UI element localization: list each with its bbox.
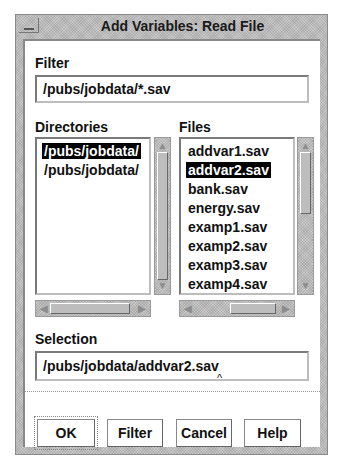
separator	[25, 391, 320, 392]
files-item-label: addvar1.sav	[186, 143, 271, 159]
selection-value: /pubs/jobdata/addvar2.sav	[43, 358, 219, 374]
files-item-label: bank.sav	[186, 181, 250, 197]
files-list-item[interactable]: energy.sav	[181, 199, 293, 218]
files-item-label: addvar2.sav	[186, 162, 271, 178]
directories-vertical-scrollbar[interactable]: ▲ ▼	[154, 137, 171, 295]
window-title: Add Variables: Read File	[42, 17, 323, 35]
directories-vscroll-thumb[interactable]	[157, 152, 168, 280]
scroll-down-icon[interactable]: ▼	[157, 281, 168, 291]
directories-hscroll-thumb[interactable]	[50, 303, 130, 314]
title-bar[interactable]: Add Variables: Read File	[16, 15, 327, 37]
window-menu-button[interactable]	[19, 18, 39, 33]
files-list-item[interactable]: addvar2.sav	[181, 161, 293, 180]
files-list-item[interactable]: bank.sav	[181, 180, 293, 199]
files-label: Files	[179, 119, 211, 135]
filter-label: Filter	[35, 55, 69, 71]
files-vscroll-thumb[interactable]	[300, 152, 311, 214]
files-item-label: examp2.sav	[186, 238, 269, 254]
filter-input[interactable]: /pubs/jobdata/*.sav	[35, 75, 309, 103]
dialog-window: Add Variables: Read File Filter /pubs/jo…	[15, 14, 328, 455]
cancel-button[interactable]: Cancel	[176, 419, 232, 447]
directories-label: Directories	[35, 119, 108, 135]
help-button[interactable]: Help	[244, 419, 301, 447]
directories-list-item[interactable]: /pubs/jobdata/	[37, 142, 149, 161]
files-list-item[interactable]: examp1.sav	[181, 218, 293, 237]
scroll-up-icon[interactable]: ▲	[157, 141, 168, 151]
scroll-left-icon[interactable]: ◀	[183, 304, 193, 314]
directories-list[interactable]: /pubs/jobdata//pubs/jobdata/	[35, 137, 151, 295]
files-hscroll-thumb[interactable]	[230, 303, 276, 314]
files-item-label: examp3.sav	[186, 257, 269, 273]
window-menu-icon	[24, 28, 34, 30]
files-list-item[interactable]: examp3.sav	[181, 256, 293, 275]
files-list-item[interactable]: addvar1.sav	[181, 142, 293, 161]
files-vertical-scrollbar[interactable]: ▲ ▼	[297, 137, 314, 295]
directories-list-item[interactable]: /pubs/jobdata/	[37, 161, 149, 180]
files-list-item[interactable]: examp2.sav	[181, 237, 293, 256]
text-cursor-icon: ^	[217, 372, 222, 384]
ok-button[interactable]: OK	[37, 419, 95, 447]
directories-item-label: /pubs/jobdata/	[42, 143, 141, 159]
directories-horizontal-scrollbar[interactable]: ◀ ▶	[35, 300, 151, 317]
selection-input[interactable]: /pubs/jobdata/addvar2.sav	[35, 351, 309, 381]
scroll-down-icon[interactable]: ▼	[300, 281, 311, 291]
filter-button[interactable]: Filter	[107, 419, 163, 447]
selection-label: Selection	[35, 331, 97, 347]
scroll-left-icon[interactable]: ◀	[39, 304, 49, 314]
files-item-label: examp1.sav	[186, 219, 269, 235]
files-item-label: energy.sav	[186, 200, 262, 216]
scroll-right-icon[interactable]: ▶	[137, 304, 147, 314]
files-list[interactable]: addvar1.savaddvar2.savbank.savenergy.sav…	[179, 137, 295, 295]
dialog-body: Filter /pubs/jobdata/*.sav Directories /…	[23, 39, 320, 447]
files-horizontal-scrollbar[interactable]: ◀ ▶	[179, 300, 295, 317]
scroll-up-icon[interactable]: ▲	[300, 141, 311, 151]
files-item-label: examp4.sav	[186, 276, 269, 292]
files-list-item[interactable]: examp4.sav	[181, 275, 293, 294]
scroll-right-icon[interactable]: ▶	[281, 304, 291, 314]
directories-item-label: /pubs/jobdata/	[42, 162, 141, 178]
